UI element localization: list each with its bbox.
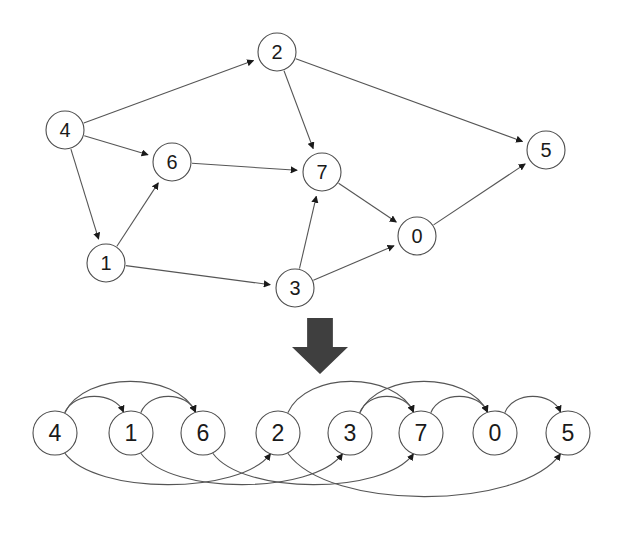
bottom-graph-node-label: 6: [197, 420, 210, 446]
edge-3-to-7: [300, 196, 317, 268]
top-graph-node-6[interactable]: 6: [153, 143, 191, 181]
bottom-graph-node-label: 7: [415, 420, 428, 446]
arc-edge-4-to-2-below: [65, 453, 271, 484]
bottom-graph-node-label: 2: [272, 420, 285, 446]
top-graph-node-1[interactable]: 1: [87, 244, 125, 282]
edge-6-to-7: [192, 163, 297, 170]
edge-3-to-0: [313, 246, 394, 280]
edge-7-to-0: [339, 183, 397, 222]
top-graph-node-0[interactable]: 0: [398, 217, 436, 255]
arc-edge-4-to-1-above: [65, 396, 124, 412]
edge-4-to-2: [84, 61, 254, 124]
edge-2-to-5: [296, 59, 523, 142]
arc-edge-0-to-5-above: [505, 396, 561, 412]
bottom-graph-node-6[interactable]: 6: [181, 411, 225, 455]
edge-4-to-1: [71, 149, 99, 239]
top-graph-node-5[interactable]: 5: [527, 131, 565, 169]
top-graph-node-layer: 42675130: [46, 33, 565, 307]
arc-edge-2-to-5-below: [288, 453, 561, 496]
arc-edge-1-to-3-below: [141, 453, 343, 484]
edge-2-to-7: [284, 71, 313, 149]
top-graph-node-4[interactable]: 4: [46, 111, 84, 149]
arc-edge-3-to-7-above: [360, 396, 414, 412]
bottom-graph-node-2[interactable]: 2: [256, 411, 300, 455]
bottom-graph-node-label: 5: [562, 420, 575, 446]
top-graph-edge-layer: [71, 59, 525, 285]
arc-edge-6-to-7-below: [213, 453, 414, 484]
edge-4-to-6: [84, 136, 148, 155]
bottom-graph-node-label: 0: [489, 420, 502, 446]
bottom-graph-node-label: 3: [344, 420, 357, 446]
top-graph-node-label: 0: [411, 225, 422, 247]
edge-0-to-5: [434, 164, 526, 225]
bottom-graph-node-7[interactable]: 7: [399, 411, 443, 455]
bottom-graph-node-3[interactable]: 3: [328, 411, 372, 455]
arc-edge-1-to-6-above: [141, 396, 196, 412]
arc-edge-7-to-0-above: [431, 396, 488, 412]
transform-arrow-layer: [292, 318, 348, 374]
bottom-graph-node-label: 1: [125, 420, 138, 446]
bottom-graph-node-label: 4: [49, 420, 62, 446]
downward-transform-arrow: [292, 318, 348, 374]
top-graph-node-label: 6: [166, 151, 177, 173]
bottom-graph-node-0[interactable]: 0: [473, 411, 517, 455]
top-graph-node-label: 7: [316, 161, 327, 183]
top-graph-node-label: 4: [59, 119, 70, 141]
bottom-graph-node-4[interactable]: 4: [33, 411, 77, 455]
graph-figure: 42675130 41623705: [0, 0, 621, 538]
bottom-graph-node-1[interactable]: 1: [109, 411, 153, 455]
bottom-graph-node-5[interactable]: 5: [546, 411, 590, 455]
edge-1-to-3: [126, 266, 270, 285]
bottom-graph-node-layer: 41623705: [33, 411, 590, 455]
top-graph-node-7[interactable]: 7: [303, 153, 341, 191]
edge-1-to-6: [117, 183, 158, 246]
top-graph-node-label: 3: [289, 277, 300, 299]
top-graph-node-2[interactable]: 2: [258, 33, 296, 71]
top-graph-node-3[interactable]: 3: [276, 269, 314, 307]
top-graph-node-label: 1: [100, 252, 111, 274]
top-graph-node-label: 5: [540, 139, 551, 161]
figure-canvas: 42675130 41623705: [0, 0, 621, 538]
top-graph-node-label: 2: [271, 41, 282, 63]
